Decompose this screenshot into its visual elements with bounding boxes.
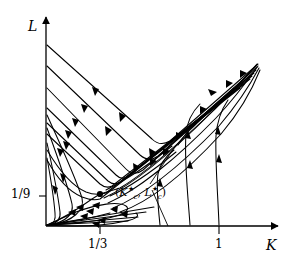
trajectory-bend-1 xyxy=(47,84,244,194)
fixed-point-label: (K★c, L★c) xyxy=(115,186,166,201)
flow-arrow-fan-2a xyxy=(81,104,88,113)
flow-arrow-fan-1a xyxy=(92,87,99,96)
fixed-point-L-star: ★ xyxy=(152,185,158,193)
trajectory-separatrix-out xyxy=(100,66,256,194)
axis-ticks-group xyxy=(39,196,219,234)
flow-arrow-vertical-1 xyxy=(187,160,193,169)
fixed-point-marker xyxy=(97,191,103,197)
x-tick-label-one-third: 1/3 xyxy=(88,238,107,250)
flow-arrow-vertical-4 xyxy=(215,126,221,135)
x-axis-label: K xyxy=(266,238,276,252)
y-tick-label-one-ninth: 1/9 xyxy=(11,188,30,200)
fixed-point-K-star: ★ xyxy=(128,185,134,193)
trajectory-fan-2 xyxy=(47,66,257,159)
fixed-point-L-symbol: L xyxy=(144,186,151,199)
flow-arrow-stable-1 xyxy=(92,202,100,209)
flow-arrow-loop-1 xyxy=(92,221,100,228)
flow-arrow-descent-1 xyxy=(119,112,126,122)
flow-arrow-fan-5a xyxy=(63,141,70,150)
phase-portrait-figure: L K 1/9 1/3 1 (K★c, L★c) xyxy=(0,0,292,268)
x-tick-label-one: 1 xyxy=(215,238,223,250)
trajectory-drop-1 xyxy=(47,143,60,225)
flow-arrow-fan-1b xyxy=(208,89,217,96)
fixed-point-paren-close: ) xyxy=(162,186,166,199)
trajectory-vertical-2 xyxy=(216,100,228,225)
phase-plane-plot xyxy=(0,0,292,268)
y-axis-label: L xyxy=(28,19,37,33)
fixed-point-K-symbol: K xyxy=(119,186,127,199)
flow-arrow-vertical-2 xyxy=(216,154,222,163)
